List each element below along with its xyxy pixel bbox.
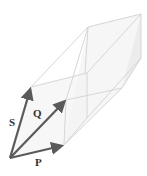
parallelepiped-diagram: S Q P — [0, 0, 147, 176]
vector-s-label: S — [9, 116, 15, 128]
vector-p-label: P — [35, 156, 42, 168]
vector-q-label: Q — [33, 107, 42, 119]
